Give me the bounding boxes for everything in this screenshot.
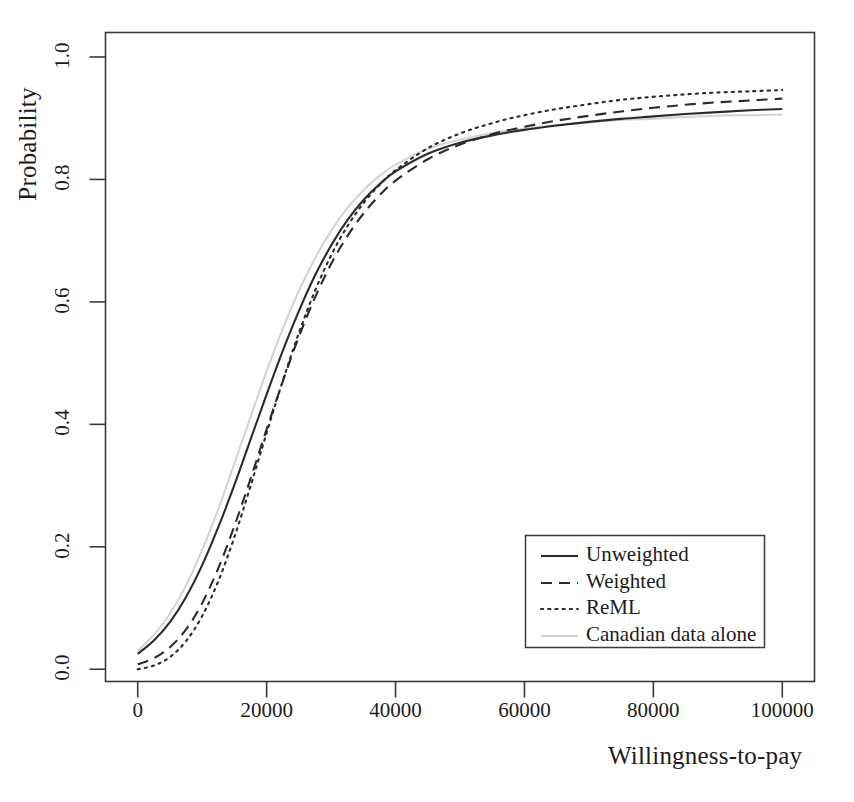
y-tick-label: 0.8 (50, 150, 75, 206)
legend-entry-label: ReML (586, 595, 641, 620)
legend-entry-label: Weighted (586, 569, 666, 594)
legend-entry-label: Canadian data alone (586, 622, 756, 647)
y-axis-title: Probability (14, 64, 42, 224)
x-tick-label: 60000 (498, 698, 551, 723)
y-tick-label: 0.0 (50, 640, 75, 696)
y-tick-label: 0.2 (50, 517, 75, 573)
figure-canvas: Probability Willingness-to-pay 020000400… (0, 0, 854, 802)
x-tick-label: 100000 (751, 698, 814, 723)
y-tick-label: 1.0 (50, 27, 75, 83)
x-tick-label: 0 (132, 698, 143, 723)
x-tick-label: 40000 (369, 698, 422, 723)
legend-entry-label: Unweighted (586, 542, 689, 567)
y-axis-ticks (90, 57, 106, 669)
y-tick-label: 0.4 (50, 395, 75, 451)
plot-area (0, 0, 854, 802)
x-tick-label: 20000 (240, 698, 293, 723)
x-tick-label: 80000 (627, 698, 680, 723)
x-axis-ticks (138, 682, 783, 698)
x-axis-title: Willingness-to-pay (608, 742, 802, 770)
y-tick-label: 0.6 (50, 272, 75, 328)
